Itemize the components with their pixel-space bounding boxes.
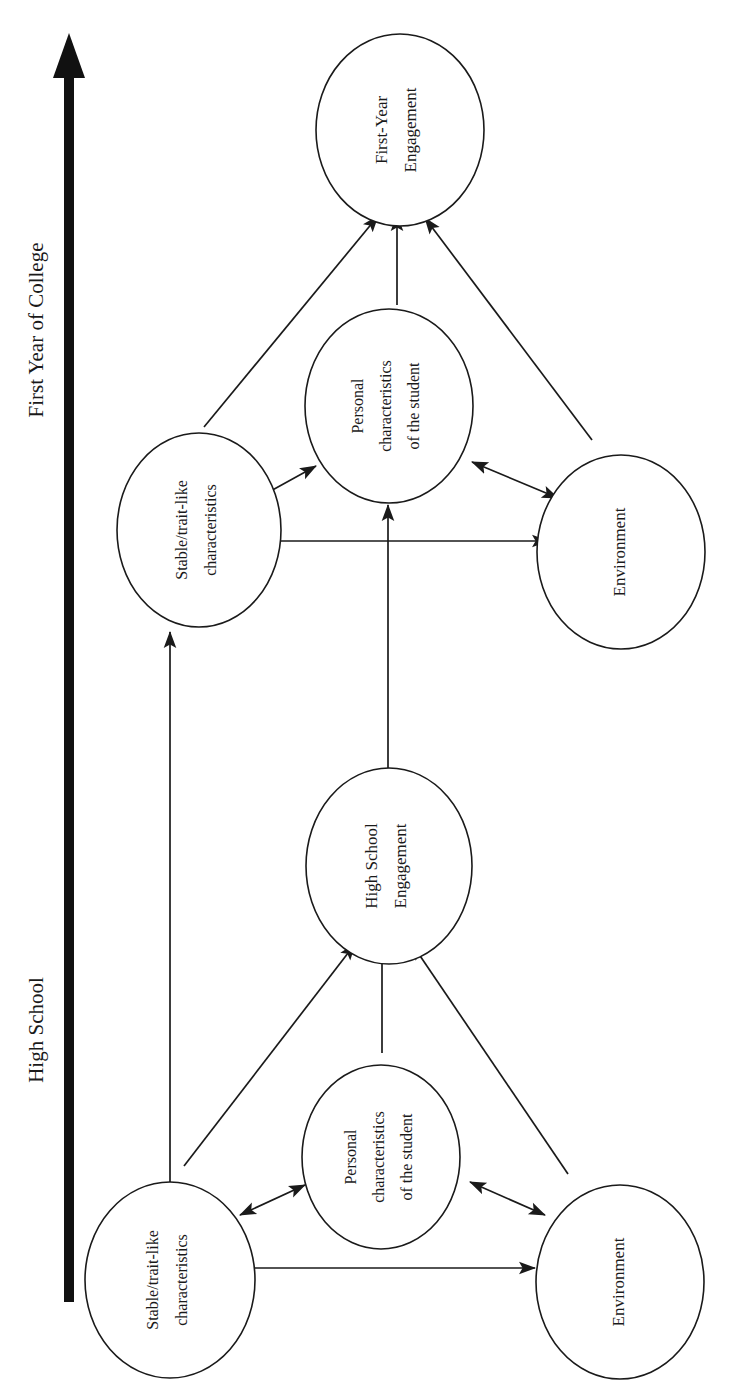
node-col-stable[interactable]: Stable/trait-like characteristics — [117, 433, 281, 627]
node-hs-environment[interactable]: Environment — [536, 1185, 704, 1379]
node-col-personal-line-2: of the student — [405, 362, 422, 450]
node-hs-environment-line-0: Environment — [609, 1237, 628, 1326]
node-col-environment[interactable]: Environment — [537, 455, 705, 649]
node-col-personal[interactable]: Personal characteristics of the student — [305, 309, 473, 503]
time-axis-arrowhead — [53, 33, 85, 78]
node-col-stable-line-1: characteristics — [202, 484, 219, 576]
node-hs-personal-line-1: characteristics — [370, 1111, 387, 1203]
node-hs-personal[interactable]: Personal characteristics of the student — [302, 1065, 460, 1249]
node-hs-stable-line-1: characteristics — [173, 1234, 190, 1326]
phase-label-first-year-college: First Year of College — [24, 243, 48, 418]
node-hs-engagement-line-0: High School — [362, 823, 381, 909]
edge-hs-stable-personal — [240, 1185, 305, 1215]
node-col-personal-line-1: characteristics — [377, 360, 394, 452]
diagram-page: First Year of College High School — [0, 0, 745, 1394]
node-col-environment-line-0: Environment — [610, 507, 629, 596]
time-axis-arrow — [53, 33, 85, 1302]
node-hs-stable-line-0: Stable/trait-like — [144, 1230, 161, 1330]
node-col-stable-line-0: Stable/trait-like — [173, 480, 190, 580]
time-axis-shaft — [64, 70, 74, 1302]
phase-label-high-school: High School — [24, 977, 48, 1083]
node-hs-engagement-line-1: Engagement — [391, 823, 410, 908]
node-hs-engagement[interactable]: High School Engagement — [306, 768, 472, 964]
conceptual-model-diagram: First Year of College High School — [0, 0, 745, 1394]
node-hs-personal-line-0: Personal — [342, 1129, 359, 1185]
edge-col-environment-personal — [472, 462, 558, 498]
node-hs-stable[interactable]: Stable/trait-like characteristics — [85, 1182, 255, 1378]
node-col-engagement-line-0: First-Year — [372, 96, 391, 165]
node-col-personal-line-0: Personal — [349, 378, 366, 434]
node-hs-personal-line-2: of the student — [398, 1113, 415, 1201]
node-col-engagement[interactable]: First-Year Engagement — [316, 34, 484, 226]
node-col-engagement-line-1: Engagement — [401, 87, 420, 172]
edge-hs-environment-personal — [470, 1182, 545, 1215]
